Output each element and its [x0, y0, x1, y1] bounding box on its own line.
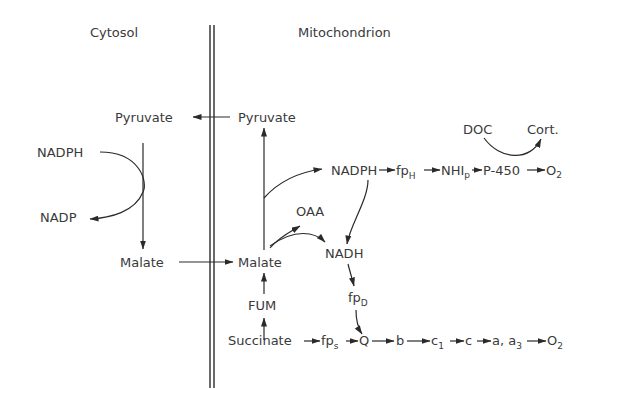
cyt-c1: c1: [431, 333, 444, 351]
respiratory-chain: Succinate fps Q b c1 c a, a3 O2: [228, 333, 563, 351]
malate-to-nadph-arrow: [264, 169, 322, 198]
p450-chain: NADPH fpH NHIp P-450 O2: [331, 163, 562, 181]
mitochondrial-membrane: [210, 25, 214, 388]
mitochondrion-label: Mitochondrion: [298, 25, 391, 40]
pyruvate-mitochondrion: Pyruvate: [238, 110, 296, 125]
nadph-mitochondrion: NADPH: [331, 163, 377, 178]
oaa: OAA: [296, 204, 324, 219]
o2-terminal: O2: [547, 333, 563, 351]
fpd-to-q-arrow: [356, 310, 362, 334]
nadh: NADH: [325, 246, 363, 261]
malate-mitochondrion: Malate: [238, 255, 282, 270]
nadh-to-fpd-arrow: [348, 264, 354, 286]
malate-cytosol: Malate: [120, 255, 164, 270]
nadp-cytosol: NADP: [40, 210, 77, 225]
succinate: Succinate: [228, 333, 292, 348]
pyruvate-cytosol: Pyruvate: [115, 110, 173, 125]
cytosol-label: Cytosol: [90, 25, 138, 40]
cyt-c: c: [465, 333, 472, 348]
doc-to-cort-arrow: [484, 138, 541, 155]
fp-s: fps: [321, 333, 339, 351]
fp-h: fpH: [396, 163, 416, 181]
nadph-to-nadh-arrow: [347, 180, 368, 244]
q: Q: [359, 333, 369, 348]
fp-d: fpD: [348, 290, 368, 308]
cyt-a-a3: a, a3: [492, 333, 522, 351]
p-450: P-450: [483, 163, 520, 178]
cyt-b: b: [396, 333, 404, 348]
nadph-cytosol: NADPH: [37, 145, 83, 160]
pathway-diagram: Cytosol Mitochondrion Pyruvate Pyruvate …: [0, 0, 632, 412]
nhi-p: NHIp: [441, 163, 470, 180]
nadph-to-nadp-arrow: [90, 152, 144, 219]
doc: DOC: [463, 122, 492, 137]
o2-p450: O2: [546, 163, 562, 180]
cort: Cort.: [527, 122, 559, 137]
fum: FUM: [248, 298, 276, 313]
